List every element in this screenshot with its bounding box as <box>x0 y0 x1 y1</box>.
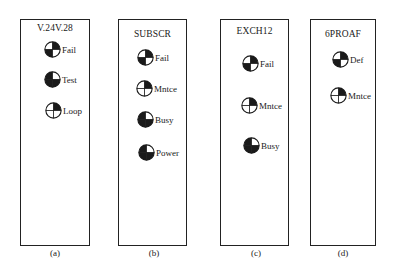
indicator-label: Busy <box>261 141 280 151</box>
indicator-label: Loop <box>63 106 82 116</box>
test-indicator-icon <box>44 71 61 88</box>
indicator-loop: Loop <box>45 102 82 119</box>
indicator-fail: Fail <box>44 41 76 58</box>
fail-indicator-icon <box>44 41 61 58</box>
power-indicator-icon <box>138 144 155 161</box>
caption-a: (a) <box>40 248 70 258</box>
indicator-label: Mntce <box>348 91 371 101</box>
def-indicator-icon <box>332 51 349 68</box>
mntce-indicator-icon <box>241 97 258 114</box>
mntce-indicator-icon <box>330 87 347 104</box>
busy-indicator-icon <box>137 111 154 128</box>
indicator-label: Power <box>156 148 179 158</box>
fail-indicator-icon <box>242 55 259 72</box>
indicator-mntce: Mntce <box>241 97 282 114</box>
indicator-fail: Fail <box>137 49 169 66</box>
panel-title: 6PROAF <box>311 29 375 39</box>
indicator-label: Def <box>350 55 364 65</box>
indicator-label: Mntce <box>259 101 282 111</box>
indicator-busy: Busy <box>243 137 280 154</box>
indicator-mntce: Mntce <box>330 87 371 104</box>
indicator-def: Def <box>332 51 364 68</box>
panel-v24v28: V.24V.28 Fail Test Loop <box>20 19 90 246</box>
panel-exch12: EXCH12 Fail Mntce Busy <box>220 19 289 246</box>
fail-indicator-icon <box>137 49 154 66</box>
panel-title: SUBSCR <box>119 29 186 39</box>
busy-indicator-icon <box>243 137 260 154</box>
panel-title: EXCH12 <box>221 26 288 36</box>
indicator-label: Fail <box>62 45 76 55</box>
caption-b: (b) <box>139 248 169 258</box>
indicator-fail: Fail <box>242 55 274 72</box>
panel-title: V.24V.28 <box>21 23 89 33</box>
indicator-label: Test <box>62 75 77 85</box>
loop-indicator-icon <box>45 102 62 119</box>
caption-d: (d) <box>328 248 358 258</box>
indicator-label: Mntce <box>154 84 177 94</box>
indicator-mntce: Mntce <box>136 80 177 97</box>
mntce-indicator-icon <box>136 80 153 97</box>
indicator-label: Fail <box>260 59 274 69</box>
indicator-test: Test <box>44 71 77 88</box>
caption-c: (c) <box>241 248 271 258</box>
panel-6proaf: 6PROAF Def Mntce <box>310 19 376 246</box>
indicator-label: Busy <box>155 115 174 125</box>
panel-subscr: SUBSCR Fail Mntce Busy Power <box>118 19 187 246</box>
indicator-busy: Busy <box>137 111 174 128</box>
indicator-power: Power <box>138 144 179 161</box>
indicator-label: Fail <box>155 53 169 63</box>
